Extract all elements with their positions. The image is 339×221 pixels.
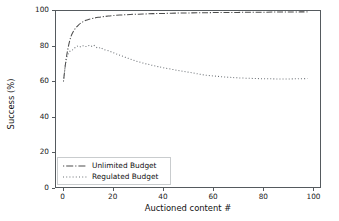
series-line-regulated-budget <box>63 45 307 81</box>
x-tick-label: 0 <box>60 193 65 200</box>
x-tick-label: 100 <box>307 193 321 200</box>
chart-figure: Success (%) 020406080100 020406080100 Au… <box>0 0 339 221</box>
y-tick-label: 100 <box>20 6 49 13</box>
y-tick-label: 20 <box>20 149 49 156</box>
x-axis-label: Auctioned content # <box>55 203 321 213</box>
x-tick-mark <box>63 188 64 191</box>
legend-item-unlimited-budget: Unlimited Budget <box>62 160 166 171</box>
x-tick-mark <box>313 188 314 191</box>
legend-line-dotted-icon <box>62 172 88 182</box>
y-tick-label: 0 <box>20 184 49 191</box>
legend-label-unlimited-budget: Unlimited Budget <box>92 162 157 169</box>
chart-legend: Unlimited Budget Regulated Budget <box>57 157 171 185</box>
x-tick-label: 20 <box>108 193 117 200</box>
x-tick-label: 80 <box>259 193 268 200</box>
y-tick-label: 60 <box>20 78 49 85</box>
legend-item-regulated-budget: Regulated Budget <box>62 171 166 182</box>
x-tick-mark <box>263 188 264 191</box>
x-tick-mark <box>163 188 164 191</box>
series-line-unlimited-budget <box>63 12 307 82</box>
y-tick-mark <box>52 188 55 189</box>
y-tick-label: 40 <box>20 113 49 120</box>
x-tick-label: 60 <box>208 193 217 200</box>
legend-line-dashdot-icon <box>62 161 88 171</box>
x-tick-label: 40 <box>158 193 167 200</box>
y-tick-label: 80 <box>20 42 49 49</box>
x-tick-mark <box>213 188 214 191</box>
x-tick-mark <box>113 188 114 191</box>
y-axis-label: Success (%) <box>6 59 16 149</box>
legend-label-regulated-budget: Regulated Budget <box>92 173 158 180</box>
